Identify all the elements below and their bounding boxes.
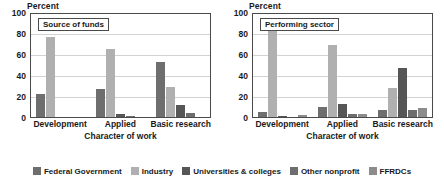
bar (338, 104, 347, 117)
legend-label: Federal Government (44, 167, 122, 176)
x-axis-labels: DevelopmentAppliedBasic research (30, 119, 211, 129)
legend-label: FFRDCs (380, 167, 412, 176)
plot-area: Performing sector (252, 13, 433, 118)
bar (166, 87, 175, 117)
y-tick-label: 40 (222, 72, 248, 80)
chart-title: Performing sector (260, 18, 339, 31)
legend-label: Universities & colleges (193, 167, 281, 176)
bar (126, 116, 135, 117)
bar (258, 112, 267, 117)
x-tick-label: Applied (312, 119, 372, 129)
bar (278, 116, 287, 117)
bar (36, 94, 45, 117)
legend-swatch-icon (182, 167, 190, 175)
bar (388, 88, 397, 117)
y-tick-label: 60 (0, 51, 26, 59)
x-tick-label: Applied (90, 119, 150, 129)
x-axis-title: Character of work (252, 131, 433, 141)
bar (348, 114, 357, 117)
legend-item[interactable]: Universities & colleges (182, 167, 281, 176)
bar (298, 115, 307, 117)
legend-label: Industry (142, 167, 174, 176)
bar (398, 68, 407, 117)
legend-item[interactable]: Other nonprofit (290, 167, 360, 176)
bar-group (150, 14, 210, 117)
y-axis-ticks: 020406080100 (222, 0, 252, 162)
legend-swatch-icon (131, 167, 139, 175)
legend-label: Other nonprofit (301, 167, 360, 176)
legend-item[interactable]: Industry (131, 167, 174, 176)
x-axis-labels: DevelopmentAppliedBasic research (252, 119, 433, 129)
bar (186, 113, 195, 117)
bar (418, 108, 427, 117)
legend-item[interactable]: Federal Government (33, 167, 122, 176)
plot-area: Source of funds (30, 13, 211, 118)
legend-swatch-icon (33, 167, 41, 175)
y-tick-label: 80 (0, 30, 26, 38)
x-tick-label: Development (30, 119, 90, 129)
x-tick-label: Basic research (373, 119, 434, 129)
y-axis-title: Percent (249, 1, 281, 11)
legend-swatch-icon (290, 167, 298, 175)
x-axis-title: Character of work (30, 131, 211, 141)
y-tick-label: 100 (0, 9, 26, 17)
bar (176, 105, 185, 117)
chart-title: Source of funds (38, 18, 109, 31)
chart-panel-performing-sector: Percent020406080100Performing sectorDeve… (222, 0, 444, 162)
bar (328, 45, 337, 117)
bar (408, 110, 417, 117)
y-axis-ticks: 020406080100 (0, 0, 30, 162)
bar (106, 49, 115, 117)
y-tick-label: 0 (222, 114, 248, 122)
y-tick-label: 0 (0, 114, 26, 122)
y-tick-label: 40 (0, 72, 26, 80)
legend-item[interactable]: FFRDCs (369, 167, 412, 176)
bar (378, 110, 387, 117)
bar (358, 114, 367, 117)
legend-swatch-icon (369, 167, 377, 175)
y-tick-label: 100 (222, 9, 248, 17)
bar (96, 89, 105, 117)
chart-legend: Federal GovernmentIndustryUniversities &… (0, 164, 444, 178)
bar (268, 25, 277, 117)
bar (318, 107, 327, 118)
chart-pair: Percent020406080100Source of fundsDevelo… (0, 0, 444, 162)
bar-group (372, 14, 432, 117)
y-tick-label: 20 (0, 93, 26, 101)
bar (116, 114, 125, 117)
x-tick-label: Development (252, 119, 312, 129)
y-axis-title: Percent (27, 1, 59, 11)
x-tick-label: Basic research (151, 119, 212, 129)
bar (156, 62, 165, 117)
bar (46, 37, 55, 117)
y-tick-label: 60 (222, 51, 248, 59)
y-tick-label: 20 (222, 93, 248, 101)
y-tick-label: 80 (222, 30, 248, 38)
chart-panel-source-of-funds: Percent020406080100Source of fundsDevelo… (0, 0, 222, 162)
